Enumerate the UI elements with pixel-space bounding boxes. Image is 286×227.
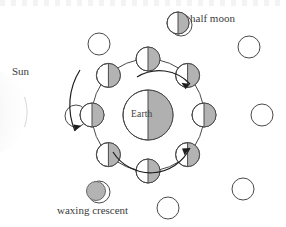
phase-bottom <box>157 197 179 219</box>
phase-bottom-right <box>232 178 254 200</box>
sun-label: Sun <box>12 66 29 77</box>
orbit-moon-top <box>136 47 160 71</box>
orbit-moon-bottom-right <box>176 143 200 167</box>
phase-bottom-left-waxing-crescent <box>87 181 111 203</box>
orbit-moon-left <box>80 103 104 127</box>
phase-top-right <box>238 36 260 58</box>
legend-half-moon-icon <box>167 12 189 34</box>
half-moon-label: half moon <box>190 13 235 24</box>
waxing-crescent-label: waxing crescent <box>57 205 128 216</box>
moon-phases-diagram: Sun half moon waxing crescent Earth <box>0 0 286 227</box>
phase-top-left <box>88 33 110 55</box>
orbit-moon-bottom-left <box>96 143 120 167</box>
earth-label: Earth <box>131 110 153 120</box>
phase-right <box>251 104 273 126</box>
orbit-moon-top-left <box>96 63 120 87</box>
sun-body <box>0 67 27 157</box>
orbit-moon-right <box>192 103 216 127</box>
